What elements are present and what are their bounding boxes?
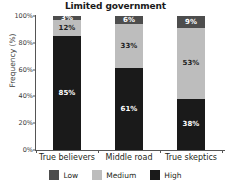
- legend-item-low[interactable]: Low: [49, 170, 78, 180]
- y-axis-tick-mark: [33, 42, 36, 43]
- y-axis-tick-mark: [33, 96, 36, 97]
- x-axis-tick-mark: [160, 150, 161, 153]
- bar-segment-medium[interactable]: 12%: [53, 20, 81, 36]
- y-axis-tick-mark: [33, 16, 36, 17]
- bar-segment-low[interactable]: 9%: [177, 16, 205, 28]
- bar-segment-high[interactable]: 61%: [115, 68, 143, 150]
- bar-segment-value-label: 38%: [183, 121, 200, 128]
- legend-label: Medium: [106, 171, 136, 180]
- x-axis-category-label: Middle road: [106, 153, 153, 162]
- legend-label: Low: [63, 171, 78, 180]
- chart-title: Limited government: [0, 1, 231, 11]
- bar-segment-value-label: 85%: [59, 90, 76, 97]
- x-axis-tick-mark: [36, 150, 37, 153]
- legend-swatch-medium-icon: [92, 170, 102, 180]
- x-axis-tick-mark: [98, 150, 99, 153]
- bar-segment-high[interactable]: 38%: [177, 99, 205, 150]
- bar-segment-value-label: 9%: [185, 19, 197, 26]
- bar-segment-value-label: 53%: [183, 60, 200, 67]
- bar-segment-high[interactable]: 85%: [53, 36, 81, 150]
- legend-item-high[interactable]: High: [150, 170, 181, 180]
- stacked-bar-chart: Limited government Frequency (%) 0%20%40…: [0, 0, 231, 188]
- x-axis-tick-mark: [222, 150, 223, 153]
- bar-true-believers[interactable]: 85%12%3%: [53, 16, 81, 150]
- bar-segment-value-label: 12%: [59, 25, 76, 32]
- legend-item-medium[interactable]: Medium: [92, 170, 136, 180]
- x-axis-category-label: True skeptics: [165, 153, 217, 162]
- chart-legend: LowMediumHigh: [0, 170, 231, 180]
- bar-segment-medium[interactable]: 33%: [115, 24, 143, 68]
- y-axis-tick-mark: [33, 69, 36, 70]
- bar-segment-value-label: 33%: [121, 43, 138, 50]
- x-axis-line: [35, 150, 225, 151]
- plot-area: 0%20%40%60%80%100%85%12%3%61%33%6%38%53%…: [36, 16, 222, 150]
- legend-swatch-high-icon: [150, 170, 160, 180]
- bar-segment-low[interactable]: 3%: [53, 16, 81, 20]
- bar-segment-low[interactable]: 6%: [115, 16, 143, 24]
- bar-segment-value-label: 3%: [61, 15, 73, 22]
- y-axis-label: Frequency (%): [8, 21, 17, 101]
- bar-segment-value-label: 6%: [123, 17, 135, 24]
- legend-swatch-low-icon: [49, 170, 59, 180]
- bar-segment-medium[interactable]: 53%: [177, 28, 205, 99]
- bar-middle-road[interactable]: 61%33%6%: [115, 16, 143, 150]
- legend-label: High: [164, 171, 181, 180]
- bar-true-skeptics[interactable]: 38%53%9%: [177, 16, 205, 150]
- bar-segment-value-label: 61%: [121, 106, 138, 113]
- y-axis-tick-mark: [33, 123, 36, 124]
- x-axis-category-label: True believers: [39, 153, 95, 162]
